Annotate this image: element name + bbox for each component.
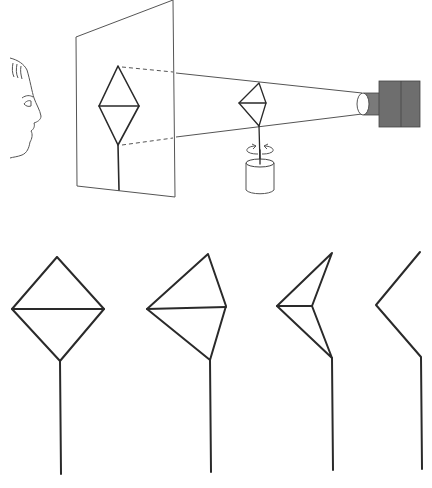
rotating-wire-object (239, 83, 266, 162)
projection-line-upper-dashed (122, 67, 173, 72)
diagram-canvas (0, 0, 432, 488)
shadow-frame-1 (12, 257, 104, 474)
shadow-frame-4 (376, 252, 422, 469)
light-beam-lower (176, 114, 362, 137)
light-beam-upper (176, 73, 362, 93)
shadow-frame-3 (277, 253, 333, 470)
shadow-frame-2 (147, 254, 226, 472)
screen-shadow-figure (99, 66, 139, 190)
projection-line-lower-dashed (122, 138, 173, 145)
projection-screen (76, 0, 175, 197)
observer-face-icon (10, 58, 41, 158)
projector-light-source (357, 81, 420, 127)
cylinder-base (246, 150, 274, 194)
